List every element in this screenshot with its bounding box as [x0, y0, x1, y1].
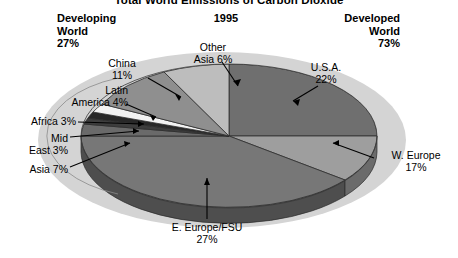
label-w-europe: W. Europe 17%	[378, 150, 454, 173]
label-china: China 11%	[96, 58, 148, 81]
chart-page: Total World Emissions of Carbon Dioxide …	[0, 0, 458, 258]
label-e-europe-fsu: E. Europe/FSU 27%	[152, 222, 262, 245]
label-latin-america: Latin America 4%	[34, 85, 128, 108]
label-other-asia: Other Asia 6%	[177, 42, 249, 65]
label-mid-east: Mid East 3%	[8, 133, 68, 156]
label-asia: Asia 7%	[8, 164, 68, 176]
label-usa: U.S.A. 22%	[296, 62, 356, 85]
pie-chart-graphic	[0, 0, 458, 258]
label-africa: Africa 3%	[8, 116, 76, 128]
